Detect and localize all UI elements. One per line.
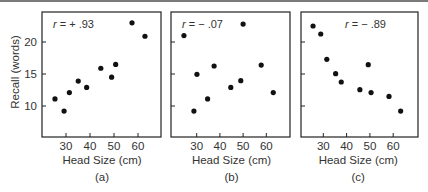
data-point bbox=[398, 109, 403, 114]
data-point bbox=[339, 79, 344, 84]
data-point bbox=[194, 72, 199, 77]
data-point bbox=[259, 62, 264, 67]
data-point bbox=[271, 90, 276, 95]
plot-frame bbox=[301, 12, 418, 137]
data-point bbox=[113, 62, 118, 67]
y-tick-label: 20 bbox=[24, 36, 37, 48]
data-point bbox=[84, 85, 89, 90]
data-point bbox=[241, 21, 246, 26]
data-point bbox=[386, 94, 391, 99]
y-tick-label: 15 bbox=[24, 68, 37, 80]
correlation-annotation: r = + .93 bbox=[53, 18, 94, 30]
x-tick-label: 40 bbox=[214, 140, 227, 152]
scatter-panel-b: 30405060Head Size (cm)(b)r = − .07 bbox=[171, 12, 290, 183]
data-point bbox=[76, 78, 81, 83]
x-tick-label: 60 bbox=[260, 140, 273, 152]
x-axis-title: Head Size (cm) bbox=[319, 154, 398, 166]
data-point bbox=[52, 96, 57, 101]
panel-label: (a) bbox=[95, 171, 109, 183]
correlation-annotation: r = − .07 bbox=[182, 18, 223, 30]
data-point bbox=[238, 78, 243, 83]
data-point bbox=[333, 71, 338, 76]
x-tick-label: 50 bbox=[108, 140, 121, 152]
data-point bbox=[368, 90, 373, 95]
x-axis-title: Head Size (cm) bbox=[62, 154, 141, 166]
x-tick-label: 30 bbox=[190, 140, 203, 152]
plot-frame bbox=[42, 12, 161, 137]
panel-label: (c) bbox=[352, 171, 366, 183]
data-point bbox=[67, 90, 72, 95]
data-point bbox=[228, 85, 233, 90]
data-point bbox=[357, 87, 362, 92]
data-point bbox=[98, 66, 103, 71]
x-axis-title: Head Size (cm) bbox=[192, 154, 271, 166]
correlation-annotation: r = − .89 bbox=[345, 18, 386, 30]
panel-label: (b) bbox=[224, 171, 238, 183]
data-point bbox=[109, 75, 114, 80]
x-tick-label: 60 bbox=[132, 140, 145, 152]
data-point bbox=[61, 109, 66, 114]
x-tick-label: 30 bbox=[317, 140, 330, 152]
x-tick-label: 50 bbox=[364, 140, 377, 152]
data-point bbox=[324, 57, 329, 62]
y-axis-title: Recall (words) bbox=[9, 35, 21, 109]
x-tick-label: 60 bbox=[387, 140, 400, 152]
plot-frame bbox=[171, 12, 290, 137]
scatter-panel-a: 10152030405060Head Size (cm)(a)r = + .93 bbox=[24, 12, 161, 183]
data-point bbox=[366, 62, 371, 67]
x-tick-label: 30 bbox=[60, 140, 73, 152]
scatter-panel-c: 30405060Head Size (cm)(c)r = − .89 bbox=[301, 12, 418, 183]
data-point bbox=[318, 31, 323, 36]
data-point bbox=[129, 20, 134, 25]
data-point bbox=[181, 33, 186, 38]
x-tick-label: 40 bbox=[340, 140, 353, 152]
data-point bbox=[310, 23, 315, 28]
y-tick-label: 10 bbox=[24, 100, 37, 112]
x-tick-label: 50 bbox=[237, 140, 250, 152]
x-tick-label: 40 bbox=[84, 140, 97, 152]
figure: Recall (words) 10152030405060Head Size (… bbox=[0, 0, 428, 192]
data-point bbox=[212, 63, 217, 68]
panels: 10152030405060Head Size (cm)(a)r = + .93… bbox=[24, 12, 418, 183]
data-point bbox=[191, 109, 196, 114]
data-point bbox=[205, 96, 210, 101]
data-point bbox=[142, 34, 147, 39]
